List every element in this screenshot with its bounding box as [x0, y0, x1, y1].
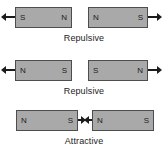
pole-label-left: N — [20, 67, 26, 75]
pole-label-right: N — [137, 67, 143, 75]
arrow-shaft — [5, 69, 15, 71]
pole-label-right: S — [138, 14, 143, 22]
diagram-row-repulsive-2: N S S N Repulsive — [0, 50, 168, 100]
force-arrow-right-outward — [148, 12, 162, 21]
force-arrow-left-outward — [1, 65, 15, 74]
pole-label-right: N — [61, 14, 67, 22]
row-caption: Attractive — [0, 136, 168, 146]
pole-label-left: S — [93, 67, 98, 75]
force-arrow-left-outward — [1, 12, 15, 21]
magnet-bar-right: N S — [92, 110, 154, 131]
pole-label-right: S — [62, 67, 67, 75]
magnet-bar-left: N S — [15, 60, 72, 81]
diagram-row-repulsive-1: S N N S Repulsive — [0, 0, 168, 50]
magnet-bar-right: N S — [88, 7, 148, 28]
pole-label-right: S — [68, 117, 73, 125]
row-caption: Repulsive — [0, 33, 168, 43]
force-arrow-inward-left — [84, 115, 92, 124]
pole-label-left: N — [97, 117, 103, 125]
row-caption: Repulsive — [0, 86, 168, 96]
magnet-pole-interaction-diagram: S N N S Repulsive N S S N — [0, 0, 168, 152]
magnet-bar-left: N S — [16, 110, 78, 131]
pole-label-left: N — [21, 117, 27, 125]
pole-label-right: S — [144, 117, 149, 125]
magnet-bar-left: S N — [15, 7, 72, 28]
force-arrow-right-outward — [148, 65, 162, 74]
magnet-bar-right: S N — [88, 60, 148, 81]
pole-label-left: S — [20, 14, 25, 22]
arrow-head-icon — [157, 13, 162, 21]
arrow-head-icon — [157, 66, 162, 74]
diagram-row-attractive: N S N S Attractive — [0, 100, 168, 152]
arrow-shaft — [5, 16, 15, 18]
pole-label-left: N — [93, 14, 99, 22]
